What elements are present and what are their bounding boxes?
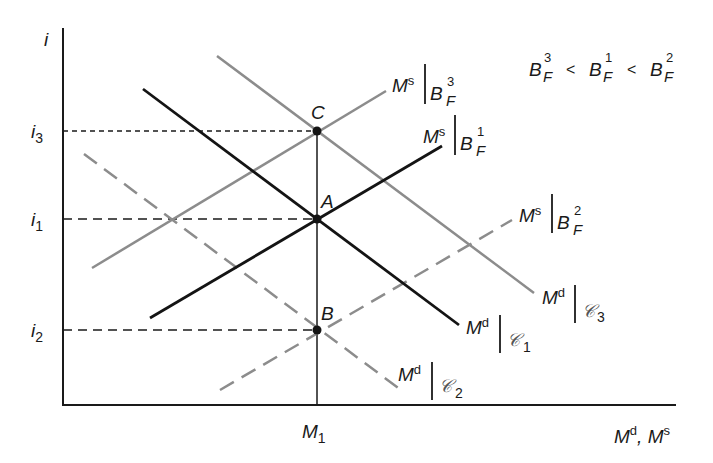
tick-label-i2: i2 [31,320,43,345]
svg-text:B: B [430,83,443,104]
point-B [313,326,322,335]
point-A [313,215,322,224]
svg-text:Ms: Ms [519,203,542,226]
reference-lines [63,131,317,405]
svg-text:2: 2 [574,203,581,218]
curve-label-Md-C3: Md 𝒞 3 [542,285,605,325]
curve-Md-C2 [84,154,401,390]
svg-text:F: F [573,221,583,238]
svg-text:B: B [460,133,473,154]
svg-text:2: 2 [666,50,673,65]
svg-text:1: 1 [605,50,612,65]
svg-text:3: 3 [447,74,454,89]
curve-label-Md-C2: Md 𝒞 2 [398,362,463,401]
svg-text:Md: Md [466,315,489,338]
point-C [313,127,322,136]
curve-Md-C1 [143,89,459,325]
x-axis-label: Md, Ms [614,423,670,447]
point-label-A: A [320,191,334,212]
svg-text:B: B [650,59,663,80]
curves [84,56,534,390]
svg-text:1: 1 [523,339,531,355]
y-axis-label: i [44,29,49,50]
point-label-C: C [311,102,325,123]
svg-text:F: F [476,142,486,159]
svg-text:B: B [529,59,542,80]
svg-text:B: B [589,59,602,80]
svg-text:<: < [627,61,636,78]
svg-text:B: B [557,212,570,233]
tick-label-i1: i1 [31,209,43,234]
svg-text:Md: Md [542,285,565,308]
svg-text:Md: Md [398,362,421,385]
curve-label-Ms-BF2: Ms B 2 F [519,194,583,238]
axes [62,28,676,405]
svg-text:Ms: Ms [392,73,415,96]
svg-text:3: 3 [597,309,605,325]
svg-text:1: 1 [477,124,484,139]
curve-Md-C3 [217,56,534,293]
svg-text:<: < [566,61,575,78]
svg-text:2: 2 [455,385,463,401]
svg-text:F: F [664,68,674,85]
equilibrium-points: C A B [311,102,334,335]
svg-text:3: 3 [544,50,551,65]
point-label-B: B [321,303,334,324]
svg-text:F: F [446,92,456,109]
tick-label-i3: i3 [31,121,43,146]
svg-text:F: F [543,68,553,85]
tick-label-M1: M1 [302,421,326,446]
inequality-annotation: B 3 F < B 1 F < B 2 F [529,50,674,85]
curve-label-Md-C1: Md 𝒞 1 [466,315,531,355]
money-market-diagram: i Md, Ms i3 i1 i2 M1 C A B Ms B 3 F [0,0,713,463]
svg-text:Ms: Ms [423,124,446,147]
curve-Ms-BF3 [92,91,386,268]
curve-label-Ms-BF3: Ms B 3 F [392,64,456,109]
svg-text:F: F [603,68,613,85]
curve-Ms-BF1 [150,146,442,318]
